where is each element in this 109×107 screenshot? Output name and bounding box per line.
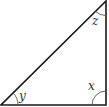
angle-x-arc	[92, 91, 106, 105]
angle-z-label: z	[91, 14, 99, 28]
angle-x-label: x	[88, 79, 95, 93]
angle-y-label: y	[18, 89, 26, 103]
angle-y-arc	[13, 93, 18, 105]
triangle-diagram: y x z	[0, 0, 109, 107]
